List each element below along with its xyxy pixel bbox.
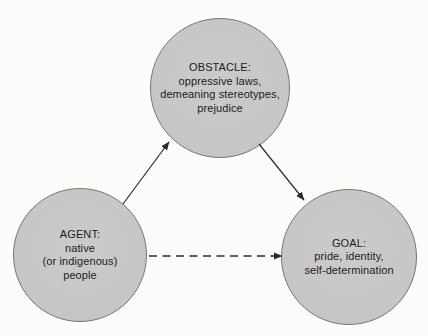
node-agent: AGENT: native (or indigenous) people	[13, 188, 147, 322]
node-obstacle-line-2: demeaning stereotypes,	[160, 88, 280, 102]
node-obstacle-title: OBSTACLE:	[160, 61, 280, 75]
node-agent-line-2: (or indigenous)	[43, 255, 118, 269]
node-goal-line-2: self-determination	[304, 264, 393, 278]
arrow-agent-to-obstacle-icon	[123, 142, 169, 204]
node-obstacle-text: OBSTACLE: oppressive laws, demeaning ste…	[160, 61, 280, 115]
arrow-obstacle-to-goal-icon	[259, 144, 304, 200]
diagram-canvas: OBSTACLE: oppressive laws, demeaning ste…	[0, 0, 428, 336]
node-goal: GOAL: pride, identity, self-determinatio…	[281, 189, 417, 325]
node-agent-line-1: native	[43, 242, 118, 256]
node-agent-line-3: people	[43, 269, 118, 283]
node-obstacle-line-3: prejudice	[160, 102, 280, 116]
node-goal-line-1: pride, identity,	[304, 250, 393, 264]
node-obstacle-line-1: oppressive laws,	[160, 75, 280, 89]
node-goal-title: GOAL:	[304, 237, 393, 251]
node-obstacle: OBSTACLE: oppressive laws, demeaning ste…	[150, 18, 290, 158]
node-goal-text: GOAL: pride, identity, self-determinatio…	[304, 237, 393, 278]
node-agent-text: AGENT: native (or indigenous) people	[43, 228, 118, 282]
node-agent-title: AGENT:	[43, 228, 118, 242]
